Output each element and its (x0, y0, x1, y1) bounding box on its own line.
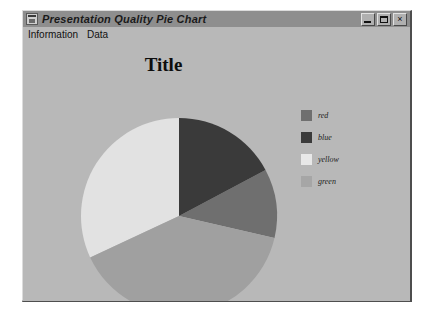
maximize-button[interactable] (377, 13, 391, 26)
legend-label-blue: blue (318, 133, 332, 142)
chart-canvas: Title red blue (23, 42, 410, 301)
menu-item-information[interactable]: Information (26, 29, 85, 40)
legend-label-red: red (318, 111, 328, 120)
legend-item-blue: blue (301, 132, 339, 143)
minimize-icon (364, 21, 371, 23)
window-title: Presentation Quality Pie Chart (42, 13, 361, 25)
legend-swatch-red (301, 110, 312, 121)
window-controls: × (361, 13, 407, 26)
maximize-icon (380, 16, 388, 23)
desktop-background: Presentation Quality Pie Chart × Informa… (0, 0, 429, 317)
chart-legend: red blue yellow (301, 110, 339, 187)
legend-item-yellow: yellow (301, 154, 339, 165)
menu-item-data[interactable]: Data (85, 29, 115, 40)
minimize-button[interactable] (361, 13, 375, 26)
close-button[interactable]: × (393, 13, 407, 26)
legend-label-yellow: yellow (318, 155, 339, 164)
legend-label-green: green (318, 177, 336, 186)
title-bar: Presentation Quality Pie Chart × (23, 11, 410, 27)
legend-item-green: green (301, 176, 339, 187)
pie-chart (23, 42, 409, 301)
legend-swatch-green (301, 176, 312, 187)
legend-swatch-blue (301, 132, 312, 143)
application-window: Presentation Quality Pie Chart × Informa… (22, 10, 412, 302)
menu-bar: Information Data (23, 27, 410, 42)
legend-item-red: red (301, 110, 339, 121)
pie-slice-group (81, 118, 277, 301)
app-window-icon (26, 13, 38, 25)
legend-swatch-yellow (301, 154, 312, 165)
close-icon: × (394, 15, 406, 24)
